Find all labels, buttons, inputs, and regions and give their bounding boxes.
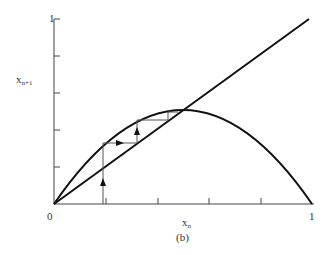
x-axis-label: xn	[182, 216, 191, 230]
origin-label: 0	[47, 210, 53, 222]
panel-label: (b)	[176, 231, 189, 243]
map-curve	[54, 110, 312, 204]
y-max-label: 1	[49, 12, 55, 24]
diagonal-line	[54, 19, 309, 204]
cobweb-path	[103, 112, 178, 204]
x-max-label: 1	[309, 210, 315, 222]
y-axis-label: xn+1	[16, 73, 32, 87]
